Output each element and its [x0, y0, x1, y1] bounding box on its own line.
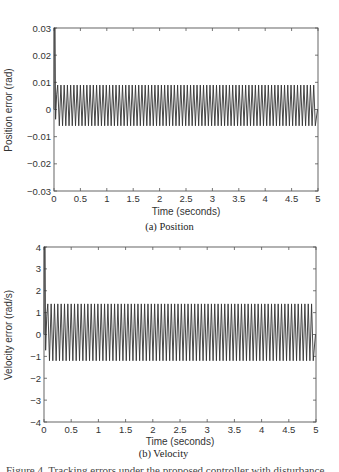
- x-tick-label: 3: [205, 424, 210, 435]
- x-tick-label: 5: [313, 424, 318, 435]
- x-tick-label: 3.5: [228, 424, 241, 435]
- x-tick-label: 4.5: [282, 424, 295, 435]
- x-tick-label: 0: [41, 424, 46, 435]
- y-tick-label: 2: [36, 285, 41, 296]
- y-tick-label: −1: [30, 351, 41, 362]
- y-tick-label: 1: [36, 307, 41, 318]
- y-tick-label: 3: [36, 263, 41, 274]
- x-axis-label: Time (seconds): [146, 436, 215, 447]
- x-tick-label: 4: [259, 424, 264, 435]
- truncated-figure-caption: Figure 4. Tracking errors under the prop…: [6, 462, 336, 472]
- plot-frame: [44, 247, 316, 422]
- x-tick-label: 1.5: [119, 424, 132, 435]
- y-tick-label: −3: [30, 395, 41, 406]
- y-tick-label: −4: [30, 417, 41, 428]
- caption-velocity: (b) Velocity: [0, 448, 333, 459]
- y-tick-label: −2: [30, 373, 41, 384]
- y-tick-label: 4: [36, 242, 41, 253]
- velocity-error-chart: 00.511.522.533.544.55−4−3−2−101234 Veloc…: [0, 0, 339, 460]
- data-line: [44, 247, 315, 361]
- x-tick-label: 0.5: [65, 424, 78, 435]
- figure-panel-velocity: 00.511.522.533.544.55−4−3−2−101234 Veloc…: [0, 0, 339, 472]
- y-tick-label: 0: [36, 329, 41, 340]
- x-tick-label: 2.5: [173, 424, 186, 435]
- x-tick-label: 1: [96, 424, 101, 435]
- x-tick-label: 2: [150, 424, 155, 435]
- y-axis-label: Velocity error (rad/s): [3, 290, 14, 380]
